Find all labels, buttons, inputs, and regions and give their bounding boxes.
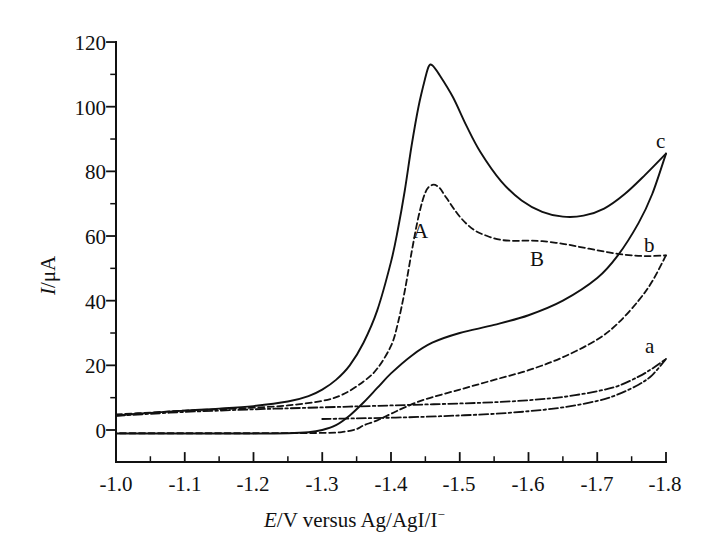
y-axis-title-unit: /μA [36, 256, 60, 288]
x-tick-label-1-5: -1.5 [425, 474, 493, 495]
x-axis-title-symbol: E [264, 508, 277, 532]
x-axis-title-superscript: − [437, 507, 444, 522]
x-tick-label-1-7: -1.7 [563, 474, 631, 495]
axis-ticks [107, 42, 666, 462]
curve-label-b: b [644, 235, 655, 256]
x-tick-label-1-4: -1.4 [357, 474, 425, 495]
y-tick-label-40: 40 [60, 292, 106, 313]
curve-c-reverse [116, 154, 666, 434]
curve-label-a: a [645, 336, 654, 357]
data-curves [116, 64, 666, 433]
curve-a-reverse [322, 359, 666, 419]
y-axis-title: I/μA [38, 256, 59, 295]
x-tick-label-1-0: -1.0 [82, 474, 150, 495]
peak-label-B: B [530, 249, 544, 270]
curve-b-forward [116, 185, 666, 415]
x-tick-label-1-8: -1.8 [631, 474, 699, 495]
plot-area [0, 0, 718, 550]
y-tick-label-20: 20 [60, 356, 106, 377]
peak-label-A: A [413, 221, 428, 242]
x-tick-label-1-2: -1.2 [219, 474, 287, 495]
x-tick-label-1-3: -1.3 [288, 474, 356, 495]
y-tick-label-100: 100 [47, 98, 106, 119]
x-axis-title: E/V versus Ag/AgI/I− [264, 508, 445, 531]
curve-a-forward [116, 359, 666, 416]
y-tick-label-0: 0 [60, 421, 106, 442]
voltammogram-figure: 0 20 40 60 80 100 120 -1.0 -1.1 -1.2 -1.… [0, 0, 718, 550]
y-tick-label-120: 120 [47, 33, 106, 54]
y-tick-label-60: 60 [60, 227, 106, 248]
x-tick-label-1-6: -1.6 [494, 474, 562, 495]
y-axis-title-symbol: I [36, 288, 60, 295]
curve-c-forward [116, 64, 666, 415]
curve-label-c: c [656, 131, 665, 152]
axis-lines [116, 42, 666, 462]
x-axis-title-rest: /V versus Ag/AgI/I [277, 508, 438, 532]
x-tick-label-1-1: -1.1 [151, 474, 219, 495]
y-tick-label-80: 80 [60, 162, 106, 183]
